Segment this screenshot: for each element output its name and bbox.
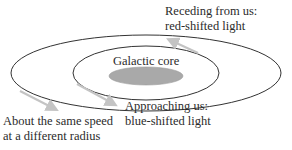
- galactic-core-shape: [109, 67, 183, 85]
- approaching-label: Approaching us: blue-shifted light: [125, 99, 211, 129]
- same-speed-label-line1: About the same speed: [3, 114, 113, 129]
- same-speed-label: About the same speed at a different radi…: [3, 114, 113, 144]
- receding-arrow-icon: [172, 41, 198, 53]
- galactic-core-label: Galactic core: [113, 54, 179, 69]
- receding-label: Receding from us: red-shifted light: [165, 4, 257, 34]
- galaxy-rotation-diagram: Receding from us: red-shifted light Gala…: [0, 0, 292, 150]
- approaching-label-line1: Approaching us:: [125, 99, 211, 114]
- receding-label-line1: Receding from us:: [165, 4, 257, 19]
- receding-label-line2: red-shifted light: [165, 19, 257, 34]
- same-speed-label-line2: at a different radius: [3, 129, 113, 144]
- approaching-label-line2: blue-shifted light: [125, 114, 211, 129]
- approaching-arrow-icon: [77, 84, 112, 103]
